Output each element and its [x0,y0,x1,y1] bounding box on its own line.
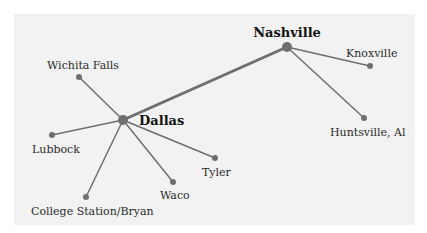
label-nashville: Nashville [253,25,321,40]
node-knoxville [367,63,373,69]
edge-dallas-college-station [86,120,123,197]
label-college-station: College Station/Bryan [31,205,154,218]
edge-dallas-wichita-falls [79,77,123,120]
node-lubbock [49,132,55,138]
label-wichita-falls: Wichita Falls [47,59,119,72]
label-tyler: Tyler [202,166,232,179]
label-dallas: Dallas [139,113,184,128]
edge-dallas-waco [123,120,173,182]
label-huntsville: Huntsville, Al [330,126,406,139]
label-knoxville: Knoxville [346,47,397,60]
label-waco: Waco [160,189,190,202]
edge-dallas-lubbock [52,120,123,135]
node-wichita-falls [76,74,82,80]
hub-network-diagram: Dallas Nashville Wichita Falls Lubbock C… [0,0,427,233]
node-huntsville [361,115,367,121]
node-nashville [282,42,292,52]
edge-dallas-nashville [123,47,287,120]
label-lubbock: Lubbock [32,143,80,156]
node-dallas [118,115,128,125]
node-tyler [212,155,218,161]
node-college-station [83,194,89,200]
node-waco [170,179,176,185]
